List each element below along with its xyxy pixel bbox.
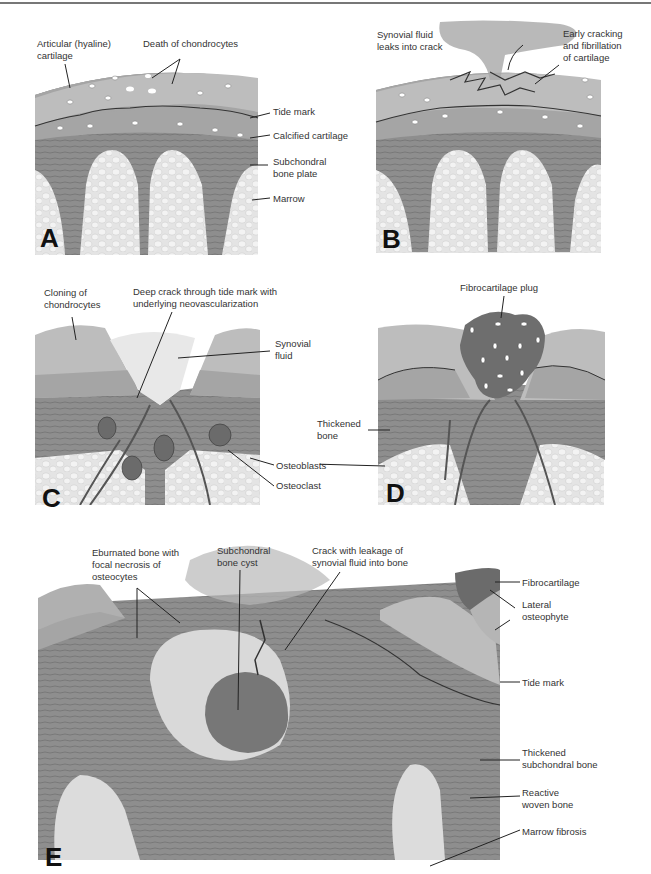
label-tide-mark-e: Tide mark — [522, 677, 564, 689]
panel-letter-e: E — [45, 844, 62, 870]
label-deep-crack: Deep crack through tide mark with underl… — [133, 286, 277, 310]
label-subchondral-bone-plate: Subchondral bone plate — [273, 156, 326, 180]
label-marrow: Marrow — [273, 193, 305, 205]
label-synovial-fluid-c: Synovial fluid — [275, 338, 311, 362]
label-lateral-osteophyte: Lateral osteophyte — [522, 599, 568, 623]
label-tide-mark-a: Tide mark — [273, 106, 315, 118]
label-synovial-fluid-leaks: Synovial fluid leaks into crack — [377, 29, 442, 53]
panel-d-illustration — [320, 280, 651, 505]
panel-letter-c: C — [42, 485, 61, 511]
label-reactive-woven-bone: Reactive woven bone — [522, 787, 573, 811]
label-death-of-chondrocytes: Death of chondrocytes — [143, 38, 238, 50]
label-thickened-bone: Thickened bone — [317, 418, 361, 442]
panel-e: Eburnated bone with focal necrosis of os… — [0, 510, 651, 874]
panel-a: Articular (hyaline) cartilage Death of c… — [0, 0, 330, 270]
label-marrow-fibrosis: Marrow fibrosis — [522, 826, 586, 838]
panel-c: Cloning of chondrocytes Deep crack throu… — [0, 280, 330, 505]
panel-b: Synovial fluid leaks into crack Early cr… — [330, 0, 651, 270]
panel-letter-b: B — [382, 226, 401, 252]
label-subchondral-bone-cyst: Subchondral bone cyst — [217, 545, 270, 569]
panel-letter-a: A — [40, 225, 59, 251]
label-crack-leakage: Crack with leakage of synovial fluid int… — [312, 545, 408, 569]
label-fibrocartilage-plug: Fibrocartilage plug — [460, 282, 538, 294]
panel-d: Fibrocartilage plug Thickened bone D — [320, 280, 651, 505]
label-thickened-subchondral-bone: Thickened subchondral bone — [522, 747, 598, 771]
label-cloning-of-chondrocytes: Cloning of chondrocytes — [44, 287, 101, 311]
panel-letter-d: D — [386, 480, 405, 506]
label-fibrocartilage: Fibrocartilage — [522, 577, 580, 589]
label-osteoclast: Osteoclast — [276, 480, 321, 492]
label-articular-cartilage: Articular (hyaline) cartilage — [37, 38, 111, 62]
label-early-cracking: Early cracking and fibrillation of carti… — [563, 28, 623, 64]
label-eburnated-bone: Eburnated bone with focal necrosis of os… — [92, 547, 179, 583]
label-osteoblasts: Osteoblasts — [276, 460, 326, 472]
